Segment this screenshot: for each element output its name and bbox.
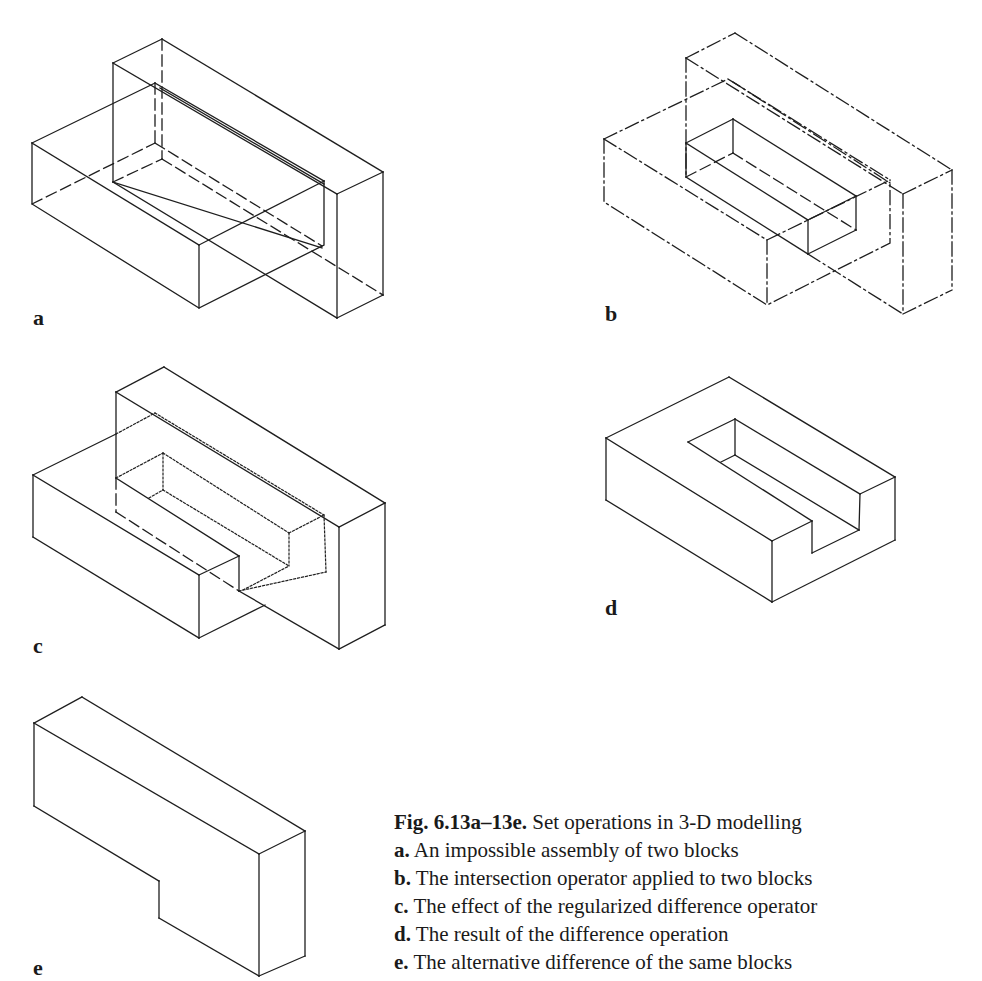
caption-item-e: e. The alternative difference of the sam…: [394, 948, 817, 976]
a-tall-top-right: [337, 172, 383, 194]
caption-item-c: c. The effect of the regularized differe…: [394, 892, 817, 920]
c-dotted-right-edge: [324, 515, 326, 572]
c-tall-top-right: [339, 503, 385, 527]
d-top-left: [606, 377, 729, 438]
c-dotted-inner-back: [163, 453, 289, 533]
b-low-top-right: [767, 180, 890, 240]
b-low-top-left: [604, 79, 728, 139]
a-low-block-top-back: [32, 83, 155, 143]
a-low-block-front-top: [32, 143, 199, 245]
d-bottom-front: [606, 500, 772, 602]
caption-title: Set operations in 3-D modelling: [532, 810, 801, 834]
caption-item-key: c.: [394, 894, 409, 918]
c-dotted-bottom-right: [239, 572, 326, 591]
a-hidden-inner-left: [113, 159, 162, 182]
figure-caption: Fig. 6.13a–13e. Set operations in 3-D mo…: [394, 808, 817, 976]
e-bottom-front: [159, 918, 259, 976]
d-top-back: [729, 377, 895, 477]
panel-label-a: a: [33, 307, 44, 329]
panel-a-drawing: [32, 39, 383, 318]
c-dotted-inner-left: [116, 453, 163, 478]
caption-title-row: Fig. 6.13a–13e. Set operations in 3-D mo…: [394, 808, 817, 836]
d-slot-floor-left: [721, 455, 735, 462]
caption-item-key: a.: [394, 838, 410, 862]
c-tall-bottom-front: [239, 591, 339, 649]
b-tall-top-right: [903, 170, 952, 194]
panel-label-d: d: [605, 597, 617, 619]
d-notch-right: [859, 494, 860, 530]
e-top-right: [259, 831, 305, 854]
caption-item-text: An impossible assembly of two blocks: [414, 838, 739, 862]
caption-item-d: d. The result of the difference operatio…: [394, 920, 817, 948]
d-slot-floor-back: [735, 455, 859, 530]
caption-item-key: e.: [394, 950, 409, 974]
c-hidden-dash-1: [116, 512, 239, 591]
c-dotted-step-top: [289, 515, 324, 533]
e-top-back: [82, 697, 305, 831]
panel-label-b: b: [605, 303, 617, 325]
d-notch-bottom: [812, 530, 859, 553]
b-tall-top-back: [735, 33, 952, 170]
b-inner-top-left: [686, 119, 733, 143]
panel-e-drawing: [34, 697, 305, 976]
panel-d-drawing: [606, 377, 895, 602]
b-tall-bottom-front: [808, 254, 903, 314]
b-low-block-outline: [604, 139, 890, 305]
b-inner-bottom-right: [808, 230, 856, 254]
d-slot-back: [735, 419, 860, 494]
c-tall-top-front: [116, 392, 339, 527]
c-dotted-inner-bottom: [163, 490, 289, 566]
a-hidden-inner-diag-2: [162, 159, 383, 295]
panel-label-c: c: [33, 635, 43, 657]
e-bottom-left: [34, 806, 159, 881]
c-low-bottom-front: [33, 537, 199, 638]
c-tall-bottom-right: [339, 625, 385, 649]
a-tall-bottom-right: [337, 295, 383, 318]
panel-b-drawing: [604, 33, 952, 314]
d-slot-left: [688, 419, 735, 442]
c-tall-top-back: [164, 367, 385, 503]
caption-item-text: The alternative difference of the same b…: [413, 950, 792, 974]
d-step-top: [772, 521, 812, 541]
a-tall-top-back: [162, 39, 383, 172]
caption-item-text: The intersection operator applied to two…: [416, 866, 813, 890]
c-low-bottom-right: [199, 605, 265, 638]
c-dotted-step-bottom: [243, 566, 289, 590]
caption-item-a: a. An impossible assembly of two blocks: [394, 836, 817, 864]
c-tall-top-left: [116, 367, 164, 392]
caption-item-text: The result of the difference operation: [416, 922, 729, 946]
panel-label-e: e: [33, 957, 43, 979]
e-bottom-right: [259, 956, 305, 976]
e-top-front: [34, 723, 259, 854]
e-top-left: [34, 697, 82, 723]
b-tall-bottom-right: [903, 290, 952, 314]
caption-item-text: The effect of the regularized difference…: [413, 894, 817, 918]
d-top-front: [606, 438, 772, 541]
panel-c-drawing: [33, 367, 385, 649]
a-tall-top-front: [113, 63, 337, 194]
c-dotted-inner-bottom-left: [149, 490, 163, 498]
caption-item-key: b.: [394, 866, 411, 890]
d-bottom-right: [772, 540, 895, 602]
a-tall-top-left: [113, 39, 162, 63]
a-low-block-back-top: [155, 83, 324, 181]
c-low-top-left: [33, 434, 116, 475]
d-top-right: [860, 477, 895, 494]
b-tall-top-left: [686, 33, 735, 58]
caption-figure-number: Fig. 6.13a–13e.: [394, 810, 527, 834]
a-tall-bottom-front: [113, 182, 337, 318]
c-dotted-top-1: [116, 413, 155, 434]
c-low-top-step: [199, 556, 239, 575]
c-low-front-top: [33, 475, 199, 575]
a-low-block-back-top-2: [160, 88, 324, 184]
caption-item-b: b. The intersection operator applied to …: [394, 864, 817, 892]
caption-item-key: d.: [394, 922, 411, 946]
b-inner-hidden-1: [686, 153, 733, 177]
a-hidden-back-bottom: [32, 143, 155, 204]
